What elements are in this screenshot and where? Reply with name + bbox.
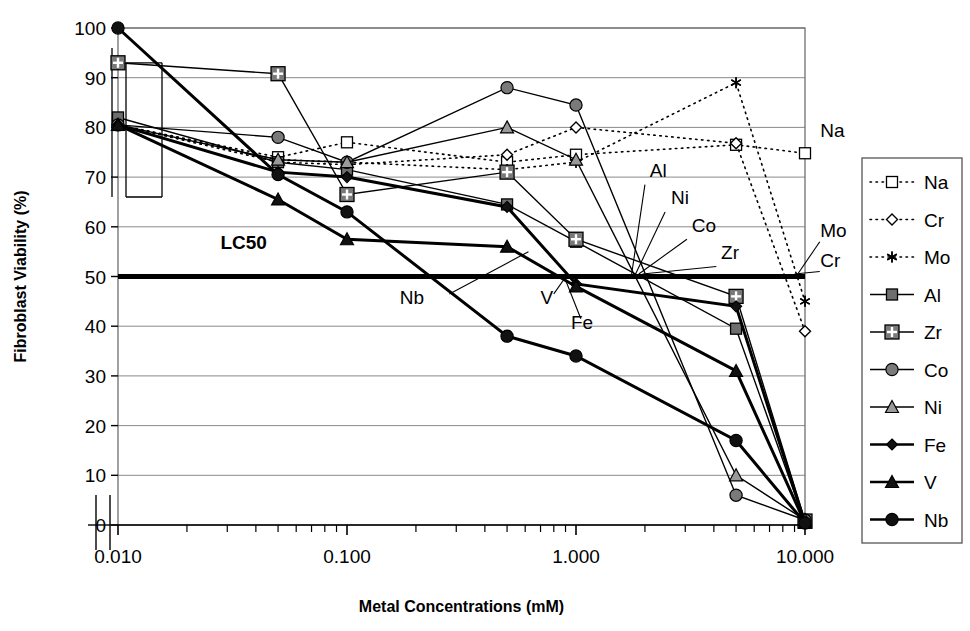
series-Al [113, 112, 811, 528]
legend-label-Na: Na [924, 172, 949, 193]
legend-label-Co: Co [924, 360, 948, 381]
x-axis-title: Metal Concentrations (mM) [359, 598, 564, 615]
legend-label-Cr: Cr [924, 210, 945, 231]
annotation-V: V [541, 287, 554, 308]
legend-label-Al: Al [924, 285, 941, 306]
marker-Nb-2 [341, 206, 353, 218]
legend-label-Mo: Mo [924, 247, 950, 268]
series-Na [113, 119, 811, 167]
marker-Nb-4 [570, 350, 582, 362]
series-line-Co [118, 88, 805, 520]
series-Fe [113, 119, 811, 528]
y-tick-label-60: 60 [85, 217, 106, 238]
marker-Cr-6 [800, 326, 811, 337]
annotation-Fe: Fe [571, 312, 593, 333]
series-Mo [113, 77, 810, 307]
y-tick-label-20: 20 [85, 416, 106, 437]
y-tick-label-100: 100 [74, 18, 106, 39]
annotation-Ni: Ni [671, 187, 689, 208]
legend-box [862, 158, 962, 543]
y-tick-label-50: 50 [85, 267, 106, 288]
series-line-V [118, 125, 805, 523]
legend-marker-Al [887, 289, 898, 300]
annotation-Cr: Cr [820, 250, 841, 271]
series-line-Zr [118, 63, 805, 521]
callout-leader [798, 242, 820, 274]
legend-label-V: V [924, 472, 937, 493]
legend-marker-Na [887, 177, 898, 188]
y-tick-label-70: 70 [85, 167, 106, 188]
x-axis [118, 525, 805, 535]
y-tick-label-10: 10 [85, 465, 106, 486]
callout-leader [639, 239, 687, 274]
series-Zr [111, 56, 812, 528]
legend: NaCrMoAlZrCoNiFeVNb [862, 158, 962, 543]
legend-label-Ni: Ni [924, 397, 942, 418]
y-axis-title: Fibroblast Viability (%) [12, 190, 29, 362]
legend-marker-Co [886, 363, 898, 375]
marker-Mo-5 [731, 77, 741, 88]
legend-marker-Nb [886, 513, 898, 525]
marker-Co-4 [570, 99, 582, 111]
series-line-Ni [118, 125, 805, 520]
marker-Nb-5 [730, 434, 742, 446]
callout-leader [449, 252, 528, 294]
marker-Mo-6 [800, 296, 810, 307]
marker-Nb-3 [501, 330, 513, 342]
callout-leader [642, 267, 716, 274]
annotation-Nb: Nb [400, 287, 424, 308]
fibroblast-viability-chart: 01020304050607080901000.0100.1001.00010.… [0, 0, 970, 631]
series-Ni [112, 118, 812, 525]
callout-leader [632, 185, 645, 274]
y-tick-label-80: 80 [85, 117, 106, 138]
marker-Nb-1 [272, 169, 284, 181]
chart-figure: 01020304050607080901000.0100.1001.00010.… [0, 0, 970, 631]
legend-label-Nb: Nb [924, 510, 948, 531]
y-tick-label-40: 40 [85, 316, 106, 337]
marker-Nb-6 [799, 517, 811, 529]
legend-label-Fe: Fe [924, 435, 946, 456]
y-tick-label-30: 30 [85, 366, 106, 387]
legend-label-Zr: Zr [924, 322, 943, 343]
annotation-Al: Al [650, 160, 667, 181]
marker-Nb-0 [112, 22, 124, 34]
x-tick-label-0.010: 0.010 [94, 546, 142, 567]
marker-V-5 [730, 364, 743, 376]
series-line-Fe [118, 125, 805, 523]
series-V [112, 118, 812, 528]
marker-Na-6 [800, 148, 811, 159]
annotation-Mo: Mo [820, 220, 846, 241]
annotation-Co: Co [692, 215, 716, 236]
annotation-Na: Na [820, 120, 845, 141]
annotation-LC50: LC50 [220, 232, 266, 253]
marker-Co-1 [272, 131, 284, 143]
x-tick-label-1.000: 1.000 [552, 546, 600, 567]
marker-Co-5 [730, 489, 742, 501]
marker-Na-2 [342, 137, 353, 148]
marker-Ni-3 [501, 121, 514, 133]
marker-Co-3 [501, 82, 513, 94]
x-tick-label-10.000: 10.000 [776, 546, 834, 567]
y-tick-label-90: 90 [85, 68, 106, 89]
annotation-Zr: Zr [721, 242, 740, 263]
marker-Al-5 [731, 323, 742, 334]
x-tick-label-0.100: 0.100 [323, 546, 371, 567]
marker-Cr-4 [571, 122, 582, 133]
